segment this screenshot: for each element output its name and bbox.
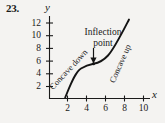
y-tick-label-2: 2 [27,82,41,92]
x-tick-label-8: 8 [119,104,131,114]
x-tick-label-10: 10 [138,104,150,114]
y-tick-label-8: 8 [27,44,41,54]
x-tick-label-4: 4 [81,104,93,114]
y-tick-label-4: 4 [27,69,41,79]
y-tick-label-12: 12 [27,19,41,29]
inflection-annotation-line1: Inflection [72,27,134,38]
y-tick-label-6: 6 [27,57,41,67]
x-tick-label-2: 2 [62,104,74,114]
y-axis-label: y [45,2,50,13]
textbook-figure: 23. y [0,0,165,123]
x-axis-label: x [152,89,157,100]
inflection-arrow [90,48,96,64]
x-tick-label-6: 6 [100,104,112,114]
y-tick-label-10: 10 [27,31,41,41]
